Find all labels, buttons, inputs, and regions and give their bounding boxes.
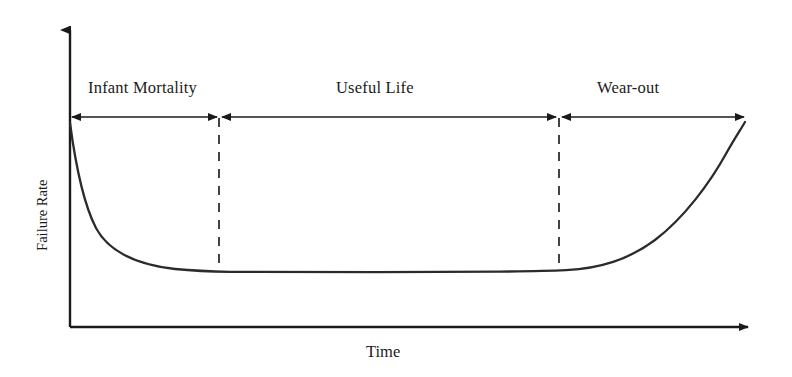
phase-label-useful-life: Useful Life (336, 80, 414, 97)
y-axis-label: Failure Rate (35, 160, 50, 270)
failure-rate-curve (70, 122, 745, 272)
bathtub-curve-figure (0, 0, 792, 377)
x-axis-label: Time (366, 344, 400, 361)
figure-canvas: Infant Mortality Useful Life Wear-out Ti… (0, 0, 792, 377)
phase-label-infant-mortality: Infant Mortality (88, 80, 197, 97)
phase-label-wear-out: Wear-out (597, 80, 659, 97)
